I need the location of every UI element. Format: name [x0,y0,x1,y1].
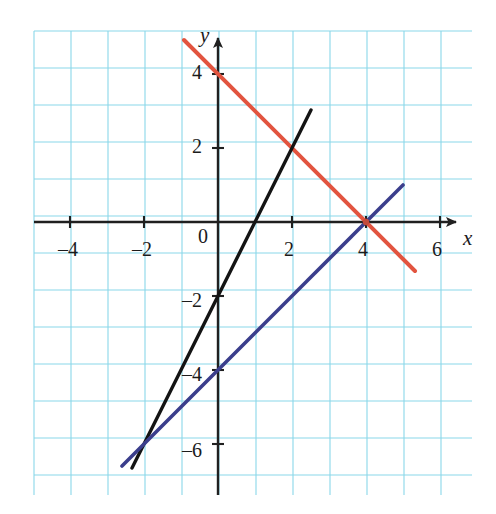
y-axis-name: y [200,25,209,46]
x-tick-label: –4 [58,239,78,259]
x-tick-label: –2 [132,239,152,259]
x-tick-label: 6 [432,239,442,259]
graph-figure: . –4–224642–2–4–60xy [0,0,496,514]
y-tick-label: –6 [182,440,202,460]
origin-label: 0 [198,226,208,246]
intersection-markers [363,219,369,225]
x-tick-label: 2 [284,239,294,259]
y-tick-label: –2 [182,290,202,310]
y-tick-label: 4 [192,62,202,82]
intersection-point [363,219,369,225]
y-tick-label: 2 [192,136,202,156]
y-tick-label: –4 [182,364,202,384]
x-tick-label: 4 [358,239,368,259]
x-axis-name: x [463,228,472,249]
